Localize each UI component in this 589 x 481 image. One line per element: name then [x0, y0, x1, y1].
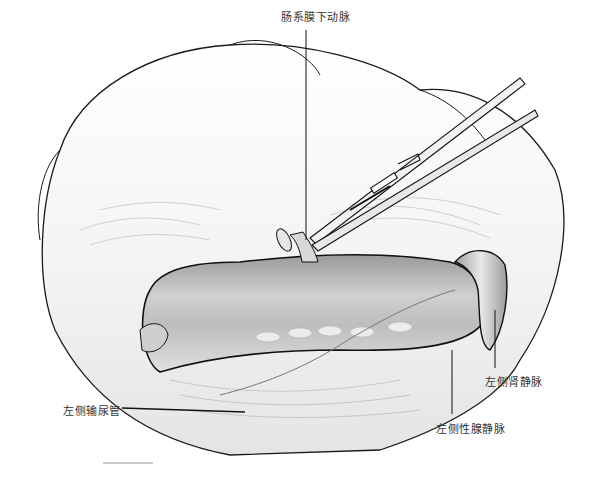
label-left-renal-vein: 左侧肾静脉	[485, 373, 543, 389]
anatomical-illustration: 肠系膜下动脉 左侧肾静脉 左侧性腺静脉 左侧输尿管	[0, 0, 589, 481]
label-left-gonadal-vein: 左侧性腺静脉	[436, 420, 505, 436]
label-left-ureter: 左侧输尿管	[63, 402, 121, 418]
label-inferior-mesenteric-artery: 肠系膜下动脉	[281, 8, 350, 24]
